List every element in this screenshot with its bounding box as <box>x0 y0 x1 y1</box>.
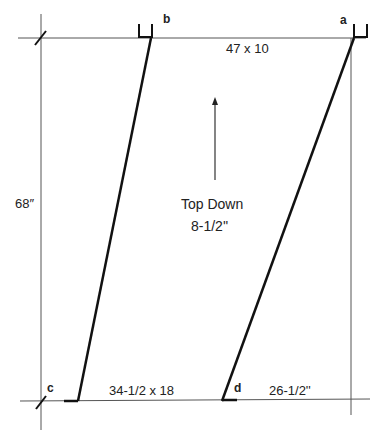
up-arrow-icon <box>212 97 218 105</box>
point-label-a: a <box>340 13 347 27</box>
bracket-a <box>354 24 367 37</box>
bracket-b <box>139 24 152 37</box>
height-dimension: 68″ <box>15 196 34 211</box>
center-note-line2: 8-1/2'' <box>191 218 228 234</box>
point-label-c: c <box>47 381 54 395</box>
board-b-c <box>78 38 151 401</box>
center-note-line1: Top Down <box>181 196 243 212</box>
bottom-right-dimension: 26-1/2'' <box>269 383 311 398</box>
point-label-b: b <box>163 12 170 26</box>
point-label-d: d <box>234 381 241 395</box>
board-a-d <box>222 38 354 401</box>
top-board-dimension: 47 x 10 <box>226 41 269 56</box>
bottom-board-dimension: 34-1/2 x 18 <box>109 383 174 398</box>
